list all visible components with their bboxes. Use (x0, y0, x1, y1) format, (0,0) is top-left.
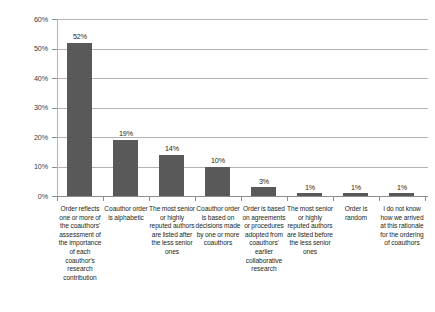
bar-2[interactable] (159, 155, 184, 196)
y-axis-label-10: 10% (12, 163, 48, 170)
y-axis-line (57, 19, 58, 197)
x-tick-4 (241, 196, 242, 201)
x-tick-3 (195, 196, 196, 201)
y-axis-label-30: 30% (12, 104, 48, 111)
x-tick-2 (149, 196, 150, 201)
bar-5[interactable] (297, 193, 322, 196)
x-tick-8 (425, 196, 426, 201)
bar-3[interactable] (205, 167, 230, 197)
bar-4[interactable] (251, 187, 276, 196)
bar-value-1: 19% (103, 130, 149, 137)
bar-value-4: 3% (241, 178, 287, 185)
x-axis-baseline (57, 196, 428, 197)
gridline-50 (57, 49, 428, 50)
bar-value-7: 1% (379, 184, 425, 191)
bar-value-2: 14% (149, 145, 195, 152)
y-tick-30 (52, 108, 57, 109)
category-label-1: Coauthor order is alphabetic (103, 205, 149, 222)
y-axis-label-40: 40% (12, 75, 48, 82)
bar-value-0: 52% (57, 33, 103, 40)
gridline-60 (57, 19, 428, 20)
y-tick-10 (52, 167, 57, 168)
x-tick-0 (57, 196, 58, 201)
x-tick-1 (103, 196, 104, 201)
bar-1[interactable] (113, 140, 138, 196)
bar-chart: 60% 50% 40% 30% 20% 10% 0% 52% 19% 14% 1… (0, 0, 435, 312)
category-label-7: I do not know how we arrived at this rat… (379, 205, 425, 248)
bar-6[interactable] (343, 193, 368, 196)
y-tick-40 (52, 78, 57, 79)
y-axis-label-0: 0% (12, 193, 48, 200)
category-label-0: Order reflects one or more of the coauth… (57, 205, 103, 282)
x-tick-5 (287, 196, 288, 201)
gridline-40 (57, 78, 428, 79)
y-tick-20 (52, 137, 57, 138)
bar-7[interactable] (389, 193, 414, 196)
category-label-3: Coauthor order is based on decisions mad… (195, 205, 241, 248)
y-axis-label-60: 60% (12, 16, 48, 23)
category-label-6: Order is random (333, 205, 379, 222)
gridline-30 (57, 108, 428, 109)
x-tick-6 (333, 196, 334, 201)
bar-value-3: 10% (195, 157, 241, 164)
y-tick-50 (52, 49, 57, 50)
y-tick-60 (52, 19, 57, 20)
bar-value-5: 1% (287, 184, 333, 191)
x-tick-7 (379, 196, 380, 201)
y-axis-label-50: 50% (12, 45, 48, 52)
y-axis-label-20: 20% (12, 134, 48, 141)
bar-0[interactable] (67, 43, 92, 196)
category-label-5: The most senior or highly reputed author… (287, 205, 333, 257)
category-label-4: Order is based on agreements or procedur… (241, 205, 287, 274)
category-label-2: The most senior or highly reputed author… (149, 205, 195, 257)
bar-value-6: 1% (333, 184, 379, 191)
